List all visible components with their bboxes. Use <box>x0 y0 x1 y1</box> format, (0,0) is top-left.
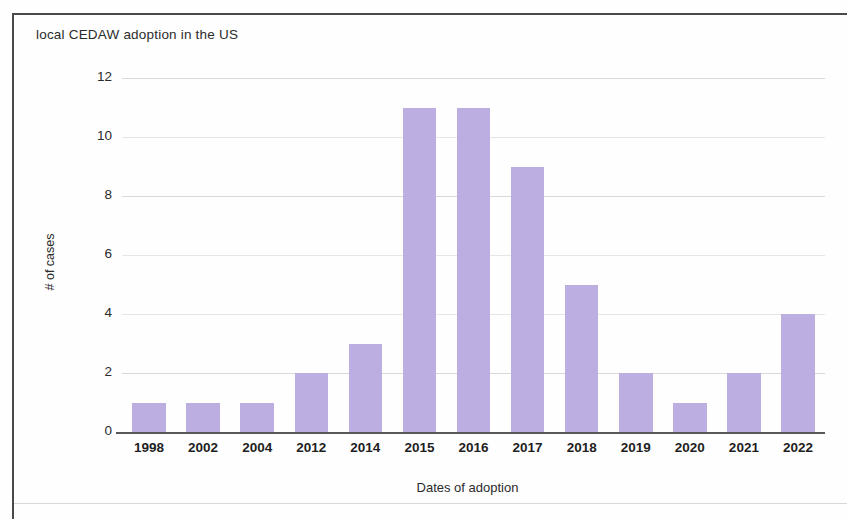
bar-slot: 2022 <box>771 78 825 432</box>
chart-title: local CEDAW adoption in the US <box>36 27 238 42</box>
bar[interactable] <box>403 108 437 433</box>
bar-series: 1998200220042012201420152016201720182019… <box>122 78 825 432</box>
x-axis-tick-label: 2017 <box>513 440 543 455</box>
bar[interactable] <box>511 167 545 433</box>
bar-slot: 2015 <box>392 78 446 432</box>
x-axis-tick-label: 1998 <box>134 440 164 455</box>
x-axis-tick-label: 2021 <box>729 440 759 455</box>
bar[interactable] <box>457 108 491 433</box>
bar-slot: 2004 <box>230 78 284 432</box>
bar-slot: 2017 <box>501 78 555 432</box>
bar-slot: 2012 <box>284 78 338 432</box>
x-axis-tick-label: 2004 <box>242 440 272 455</box>
bar-slot: 2021 <box>717 78 771 432</box>
bar[interactable] <box>132 403 166 433</box>
bar-slot: 2018 <box>555 78 609 432</box>
x-axis-tick-label: 2022 <box>783 440 813 455</box>
y-axis-tick-label: 0 <box>82 423 112 438</box>
bar-slot: 2016 <box>446 78 500 432</box>
x-axis-tick-label: 2016 <box>458 440 488 455</box>
bar[interactable] <box>727 373 761 432</box>
y-axis-tick-label: 8 <box>82 187 112 202</box>
y-axis-title: # of cases <box>43 202 57 322</box>
x-axis-tick-label: 2012 <box>296 440 326 455</box>
x-axis-title: Dates of adoption <box>110 480 825 495</box>
bar[interactable] <box>781 314 815 432</box>
y-axis-tick-label: 4 <box>82 305 112 320</box>
x-axis-tick-label: 2014 <box>350 440 380 455</box>
x-axis-tick-label: 2015 <box>404 440 434 455</box>
plot-area: 024681012 199820022004201220142015201620… <box>122 78 825 432</box>
y-axis-tick-label: 2 <box>82 364 112 379</box>
bar[interactable] <box>349 344 383 433</box>
bar-slot: 2019 <box>609 78 663 432</box>
x-axis-line <box>116 432 825 434</box>
x-axis-tick-label: 2002 <box>188 440 218 455</box>
bar[interactable] <box>565 285 599 433</box>
bar[interactable] <box>673 403 707 433</box>
bar[interactable] <box>295 373 329 432</box>
x-axis-tick-label: 2018 <box>567 440 597 455</box>
bar[interactable] <box>186 403 220 433</box>
y-axis-tick-label: 6 <box>82 246 112 261</box>
bar[interactable] <box>240 403 274 433</box>
bar[interactable] <box>619 373 653 432</box>
bar-slot: 2002 <box>176 78 230 432</box>
x-axis-tick-label: 2019 <box>621 440 651 455</box>
x-axis-tick-label: 2020 <box>675 440 705 455</box>
bar-slot: 2020 <box>663 78 717 432</box>
bar-slot: 1998 <box>122 78 176 432</box>
bar-slot: 2014 <box>338 78 392 432</box>
bar-chart: local CEDAW adoption in the US # of case… <box>0 0 847 519</box>
scanned-page: local CEDAW adoption in the US # of case… <box>0 0 847 519</box>
y-axis-tick-label: 10 <box>82 128 112 143</box>
y-axis-tick-label: 12 <box>82 69 112 84</box>
